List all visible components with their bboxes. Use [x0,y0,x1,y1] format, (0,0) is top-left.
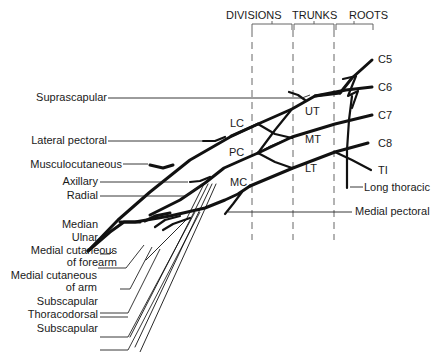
label-radial: Radial [67,189,98,201]
label-ulnar: Ulnar [72,231,99,243]
label-posterior-cord: PC [229,146,244,158]
label-lateral-pectoral: Lateral pectoral [31,134,107,146]
label-lower-trunk: LT [305,162,317,174]
label-median: Median [62,218,98,230]
medial-cord [120,186,250,222]
header-trunks: TRUNKS [292,9,337,21]
label-subscapular-lower: Subscapular [37,322,98,334]
label-subscapular-upper: Subscapular [37,295,98,307]
long-thoracic-nerve [347,96,352,188]
label-c7: C7 [378,109,392,121]
label-c8: C8 [378,137,392,149]
label-middle-trunk: MT [305,133,321,145]
label-medial-cut-arm-2: of arm [66,281,97,293]
label-axillary: Axillary [63,175,99,187]
label-long-thoracic: Long thoracic [364,181,431,193]
label-upper-trunk: UT [305,105,320,117]
label-lateral-cord: LC [230,117,244,129]
label-medial-cut-forearm-2: of forearm [67,256,117,268]
column-dividers [252,30,334,240]
label-t1: TI [378,164,388,176]
musculocutaneous-branch [150,165,173,168]
header-divisions: DIVISIONS [226,9,282,21]
label-medial-pectoral: Medial pectoral [355,205,430,217]
label-medial-cut-arm-1: Medial cutaneous [11,269,98,281]
header-roots: ROOTS [349,9,388,21]
label-medial-cord: MC [230,176,247,188]
label-musculocutaneous: Musculocutaneous [30,158,122,170]
lower-leaders [98,212,200,350]
root-t1 [335,152,371,170]
column-brackets [252,21,373,30]
suprascapular-branch [289,92,305,100]
label-thoracodorsal: Thoracodorsal [28,308,98,320]
label-medial-cut-forearm-1: Medial cutaneous [31,244,118,256]
label-suprascapular: Suprascapular [36,91,107,103]
brachial-plexus-diagram: DIVISIONS TRUNKS ROOTS [0,0,444,352]
label-c5: C5 [378,53,392,65]
label-c6: C6 [378,81,392,93]
